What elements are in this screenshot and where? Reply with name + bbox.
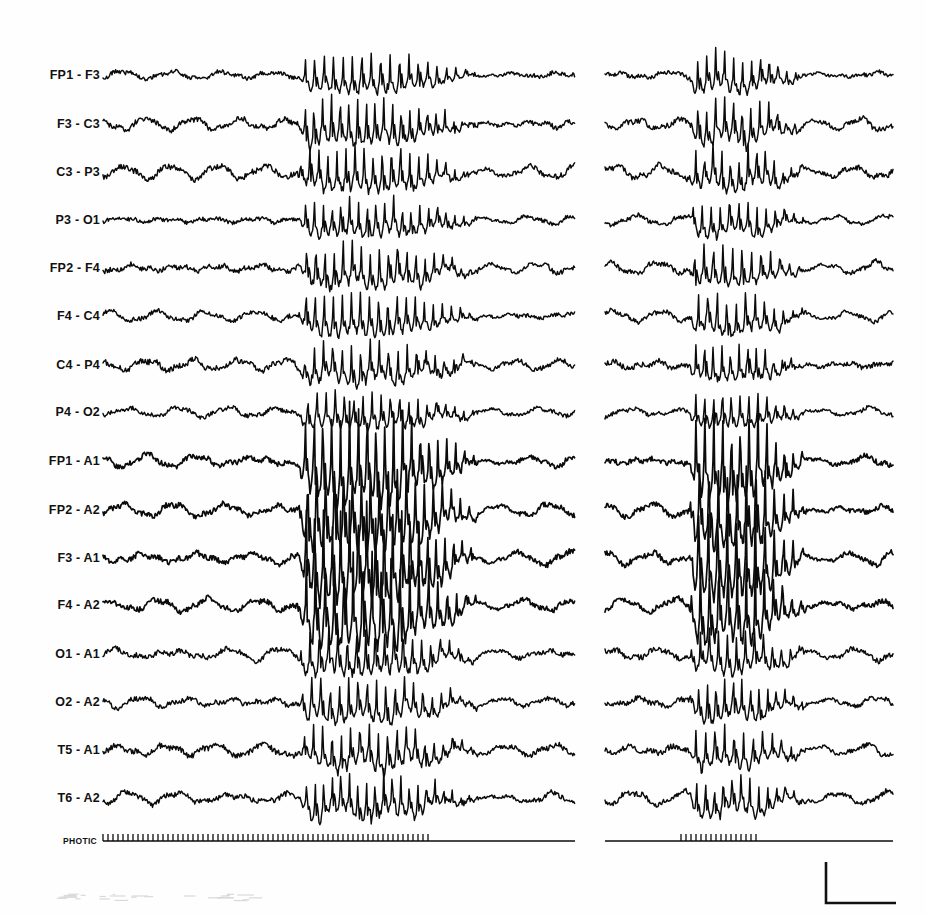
trace-segment xyxy=(103,144,575,194)
scan-speck xyxy=(237,894,254,895)
scan-speck xyxy=(113,894,116,895)
trace-segment xyxy=(103,724,575,777)
channel-label-f3-a1: F3 - A1 xyxy=(0,551,100,565)
trace-segment xyxy=(103,195,575,239)
eeg-trace-o2-a2 xyxy=(103,677,893,726)
trace-segment xyxy=(605,724,893,773)
eeg-trace-c3-p3 xyxy=(103,143,893,194)
channel-label-fp2-a2: FP2 - A2 xyxy=(0,503,100,517)
trace-segment xyxy=(103,292,575,338)
channel-label-c3-p3: C3 - P3 xyxy=(0,165,100,179)
scan-speck xyxy=(243,899,250,900)
photic-stimulation-trace xyxy=(103,834,893,841)
scan-artifacts xyxy=(57,894,263,902)
channel-label-o1-a1: O1 - A1 xyxy=(0,647,100,661)
trace-segment xyxy=(605,48,893,96)
trace-segment xyxy=(605,293,893,337)
eeg-trace-fp1-f3 xyxy=(103,48,893,96)
eeg-recording-page: FP1 - F3F3 - C3C3 - P3P3 - O1FP2 - F4F4 … xyxy=(0,0,926,915)
scan-speck xyxy=(57,898,67,899)
channel-label-fp1-a1: FP1 - A1 xyxy=(0,454,100,468)
calibration-marker xyxy=(826,862,896,903)
eeg-trace-t5-a1 xyxy=(103,724,893,777)
channel-label-fp1-f3: FP1 - F3 xyxy=(0,68,100,82)
channel-label-f4-c4: F4 - C4 xyxy=(0,309,100,323)
trace-segment xyxy=(103,677,575,726)
scan-speck xyxy=(81,895,86,896)
trace-segment xyxy=(605,244,893,287)
channel-label-t6-a2: T6 - A2 xyxy=(0,791,100,805)
channel-label-o2-a2: O2 - A2 xyxy=(0,695,100,709)
trace-segment xyxy=(103,768,575,824)
trace-segment xyxy=(605,203,893,241)
channel-label-c4-p4: C4 - P4 xyxy=(0,358,100,372)
scan-speck xyxy=(100,896,106,897)
channel-label-p4-o2: P4 - O2 xyxy=(0,405,100,419)
scan-speck xyxy=(221,895,228,896)
trace-segment xyxy=(103,339,575,389)
scan-speck xyxy=(132,895,149,896)
channel-label-fp2-f4: FP2 - F4 xyxy=(0,261,100,275)
eeg-trace-c4-p4 xyxy=(103,339,893,389)
channel-label-f4-a2: F4 - A2 xyxy=(0,598,100,612)
trace-segment xyxy=(605,775,893,820)
scan-speck xyxy=(99,898,109,899)
trace-segment xyxy=(103,390,575,432)
channel-label-f3-c3: F3 - C3 xyxy=(0,117,100,131)
scan-speck xyxy=(63,896,77,897)
trace-segment xyxy=(103,240,575,292)
trace-segment xyxy=(605,628,893,677)
scan-speck xyxy=(64,895,77,896)
channel-label-t5-a1: T5 - A1 xyxy=(0,743,100,757)
scan-speck xyxy=(249,897,262,898)
scan-speck xyxy=(227,894,234,895)
scan-speck xyxy=(208,897,221,898)
scan-speck xyxy=(115,900,128,901)
trace-segment xyxy=(605,97,893,151)
trace-segment xyxy=(605,407,893,504)
trace-segment xyxy=(103,94,575,151)
eeg-trace-canvas xyxy=(0,0,926,915)
trace-segment xyxy=(103,501,575,609)
eeg-trace-f3-c3 xyxy=(103,94,893,151)
photic-channel-label: PHOTIC xyxy=(0,836,97,846)
scan-speck xyxy=(131,897,137,898)
eeg-trace-p4-o2 xyxy=(103,390,893,432)
trace-segment xyxy=(103,53,575,95)
eeg-trace-o1-a1 xyxy=(103,626,893,677)
eeg-trace-p3-o1 xyxy=(103,195,893,240)
scan-speck xyxy=(68,894,79,895)
eeg-trace-f4-a2 xyxy=(103,551,893,651)
eeg-trace-f4-c4 xyxy=(103,292,893,338)
trace-segment xyxy=(605,464,893,551)
channel-label-p3-o1: P3 - O1 xyxy=(0,213,100,227)
scan-speck xyxy=(75,898,80,899)
eeg-trace-fp2-f4 xyxy=(103,240,893,292)
trace-segment xyxy=(605,143,893,194)
scan-speck xyxy=(110,895,126,896)
scan-speck xyxy=(184,895,196,896)
calibration-bar xyxy=(826,862,896,903)
trace-segment xyxy=(605,344,893,382)
trace-segment xyxy=(605,679,893,724)
eeg-trace-t6-a2 xyxy=(103,768,893,824)
